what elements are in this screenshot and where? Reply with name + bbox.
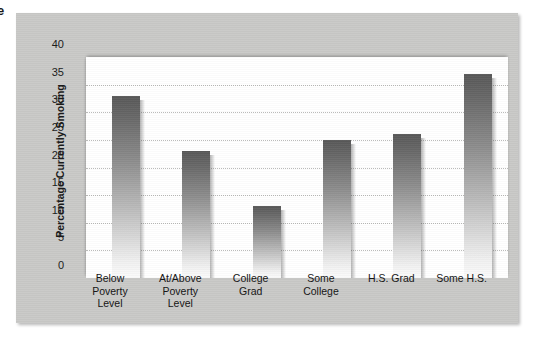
chart-figure: e 4035302520151050 Percentage Currently … [0, 0, 541, 339]
bar [323, 140, 351, 278]
x-tick-label-line: Some H.S. [419, 272, 505, 285]
x-tick-label-line: Level [137, 297, 223, 310]
bar [464, 74, 492, 278]
bar [393, 134, 421, 278]
x-tick-label: Some H.S. [419, 272, 505, 285]
gridline [86, 85, 508, 86]
bar [112, 96, 140, 278]
y-axis-title-wrap: Percentage Currently Smoking [0, 0, 70, 339]
plot-area [86, 57, 508, 278]
y-axis-title: Percentage Currently Smoking [54, 66, 66, 256]
gridline [86, 250, 508, 251]
x-tick-label-line: College [278, 285, 364, 298]
gridline [86, 223, 508, 224]
gridline [86, 140, 508, 141]
gridline [86, 112, 508, 113]
gridline [86, 195, 508, 196]
bar [182, 151, 210, 278]
bar [253, 206, 281, 278]
gridline [86, 168, 508, 169]
